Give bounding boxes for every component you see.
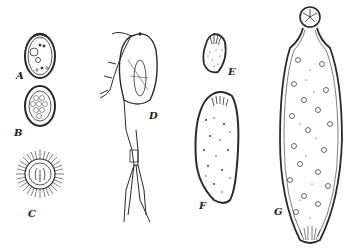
label-a: A	[16, 70, 24, 81]
specimen-b	[25, 86, 55, 126]
specimen-a	[25, 34, 55, 78]
specimen-e	[203, 34, 225, 72]
label-g: G	[274, 206, 283, 217]
label-c: C	[28, 208, 36, 219]
specimen-g	[280, 7, 342, 243]
label-e: E	[228, 66, 236, 77]
specimen-d	[100, 32, 157, 222]
specimen-c	[16, 150, 64, 198]
label-b: B	[14, 127, 22, 138]
label-d: D	[149, 110, 158, 121]
specimen-f	[196, 92, 239, 203]
illustration-plate	[0, 0, 352, 250]
label-f: F	[199, 200, 206, 211]
